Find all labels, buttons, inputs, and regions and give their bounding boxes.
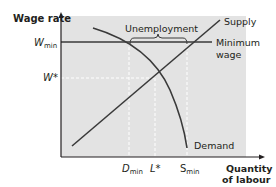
- w-star-label: W*: [43, 72, 58, 83]
- minimum-wage-diagram: Wage rate Wmin W* Unemployment Supply Mi…: [0, 0, 276, 187]
- d-min-label: Dmin: [122, 163, 143, 176]
- supply-label: Supply: [224, 16, 257, 27]
- s-min-label: Smin: [180, 163, 200, 176]
- l-star-label: L*: [150, 163, 161, 174]
- minimum-wage-label-line2: wage: [216, 49, 242, 60]
- x-axis-label-line2: of labour: [222, 174, 271, 185]
- x-axis-label-line1: Quantity: [226, 163, 273, 174]
- demand-label: Demand: [194, 140, 234, 151]
- y-axis-label: Wage rate: [13, 13, 71, 24]
- x-axis-arrow-icon: [259, 155, 265, 160]
- unemployment-label: Unemployment: [125, 23, 198, 34]
- minimum-wage-label-line1: Minimum: [216, 37, 260, 48]
- w-min-label: Wmin: [34, 37, 57, 50]
